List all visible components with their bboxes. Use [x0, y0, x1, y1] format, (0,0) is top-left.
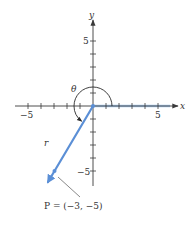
x-tick-label-5: 5 [155, 110, 161, 120]
polar-angle-diagram: x y −5 5 5 −5 θ r P = (−3, −5) [0, 0, 191, 228]
point-p-label: P = (−3, −5) [44, 201, 103, 211]
ray-r-label: r [44, 138, 49, 148]
theta-label: θ [71, 84, 77, 94]
x-axis-label: x [180, 101, 185, 111]
point-p [53, 169, 57, 173]
x-tick-label-neg5: −5 [20, 110, 34, 120]
point-p-leader-line [58, 177, 80, 197]
origin-point [91, 104, 95, 108]
y-tick-label-neg5: −5 [77, 167, 91, 177]
y-axis-label: y [88, 10, 95, 20]
y-tick-label-5: 5 [83, 36, 89, 46]
